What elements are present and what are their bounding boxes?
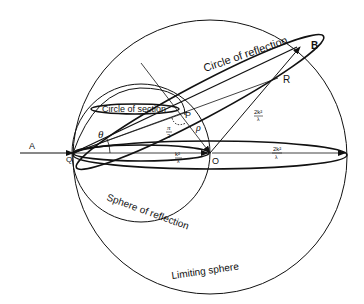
two-k2-lambda-horiz-numerator: 2k² [273, 146, 281, 152]
circle-of-reflection-ellipse [68, 21, 331, 182]
reflection-geometry-diagram: Circle of reflection Circle of section S… [0, 0, 364, 304]
point-o-label: O [212, 156, 219, 166]
two-k2-lambda-horiz-denominator: λ [275, 154, 278, 160]
k2-lambda-numerator: k² [175, 151, 180, 157]
point-q-label: Q [66, 155, 72, 164]
point-p-label: P [185, 110, 191, 120]
circle-of-section-label: Circle of section [102, 104, 166, 114]
point-b-label: B [311, 40, 318, 51]
two-k2-lambda-diag-numerator: 2k² [254, 109, 262, 115]
rho-symbol: ρ [195, 122, 201, 133]
pi-over-2-numerator: π [167, 124, 171, 132]
point-r-label: R [283, 74, 290, 85]
point-a-label: A [29, 141, 35, 151]
two-k2-lambda-diag-denominator: λ [257, 116, 260, 122]
theta-symbol: θ [98, 128, 104, 140]
limiting-sphere-label: Limiting sphere [171, 261, 240, 281]
circle-of-reflection-label: Circle of reflection [202, 34, 289, 74]
